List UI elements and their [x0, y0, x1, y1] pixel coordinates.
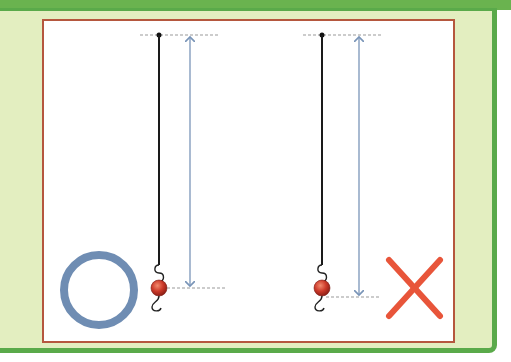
correct-pendulum: [140, 33, 227, 311]
correct-circle-icon: [64, 255, 134, 325]
pendulum-bob-icon: [314, 280, 330, 296]
incorrect-pendulum: [303, 33, 383, 311]
hook-bottom-icon: [315, 296, 324, 311]
pendulum-bob-icon: [151, 280, 167, 296]
hook-bottom-icon: [152, 296, 161, 311]
hook-top-icon: [155, 265, 164, 282]
figure-frame: [0, 0, 511, 362]
hook-top-icon: [318, 265, 327, 282]
pendulum-diagram: [0, 0, 511, 362]
incorrect-cross-icon: [389, 260, 440, 316]
